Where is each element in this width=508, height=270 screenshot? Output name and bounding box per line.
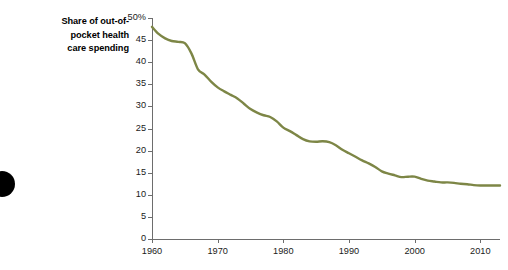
series-plot [0, 0, 508, 270]
chart-root: Share of out-of- pocket health care spen… [0, 0, 508, 270]
series-line-0 [152, 27, 500, 186]
line-chart: 05101520253035404550% 196019701980199020… [0, 0, 508, 270]
